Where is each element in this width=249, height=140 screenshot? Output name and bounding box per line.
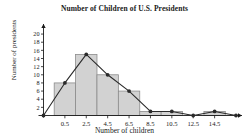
chart-container: Number of Children of U.S. Presidents 24…	[0, 0, 249, 140]
y-tick-label: 2	[36, 104, 39, 111]
x-tick-labels: 0.52.54.56.58.510.512.514.5	[61, 116, 221, 127]
x-axis-title: Number of children	[0, 126, 249, 135]
y-axis-title: Number of presidents	[10, 10, 18, 90]
histogram-plot: 2468101214161820 0.52.54.56.58.510.512.5…	[0, 0, 249, 140]
histogram-bar	[54, 83, 75, 116]
data-point-marker	[149, 110, 153, 114]
y-tick-label: 6	[36, 87, 39, 94]
y-tick-label: 8	[36, 79, 39, 86]
y-tick-label: 4	[36, 95, 39, 102]
data-point-marker	[63, 81, 67, 85]
y-tick-labels: 2468101214161820	[33, 30, 43, 110]
y-tick-label: 18	[33, 38, 39, 45]
y-tick-label: 16	[33, 47, 39, 54]
data-point-marker	[213, 110, 217, 114]
data-point-marker	[127, 89, 131, 93]
data-point-marker	[84, 53, 88, 57]
y-tick-label: 20	[33, 30, 39, 37]
y-tick-label: 12	[33, 63, 39, 70]
data-point-marker	[106, 73, 110, 77]
y-tick-label: 10	[33, 71, 39, 78]
histogram-bar	[118, 91, 139, 115]
x-axis-arrow-icon	[238, 113, 242, 117]
y-tick-label: 14	[33, 55, 39, 62]
y-axis-arrow-icon	[41, 24, 45, 28]
data-point-marker	[234, 114, 238, 118]
data-point-marker	[191, 114, 195, 118]
data-point-marker	[42, 114, 46, 118]
data-point-marker	[170, 110, 174, 114]
